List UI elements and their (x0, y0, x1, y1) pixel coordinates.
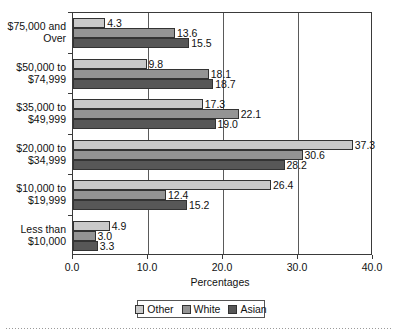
bar-value-label: 3.3 (98, 241, 115, 252)
bar-asian[interactable] (73, 79, 213, 89)
bar-white[interactable] (73, 231, 96, 241)
bar-group: 9.818.118.7 (73, 54, 371, 95)
x-axis-title-text: Percentages (191, 276, 250, 288)
category-label: $50,000 to $74,999 (0, 61, 66, 85)
bar-row: 30.6 (73, 150, 371, 160)
legend-swatch-white-icon (182, 305, 191, 314)
bar-row: 19.0 (73, 119, 371, 129)
legend-item-asian[interactable]: Asian (228, 304, 266, 315)
plot-area: 4.313.615.59.818.118.717.322.119.037.330… (72, 12, 372, 255)
bar-white[interactable] (73, 28, 175, 38)
legend-label-other: Other (147, 304, 173, 315)
category-label: $20,000 to $34,999 (0, 142, 66, 166)
bar-group: 37.330.628.2 (73, 135, 371, 176)
x-axis-tick-label: 30.0 (287, 261, 307, 273)
bar-row: 13.6 (73, 28, 371, 38)
bar-row: 15.5 (73, 38, 371, 48)
bar-value-label: 15.2 (187, 200, 209, 211)
bar-asian[interactable] (73, 160, 285, 170)
x-axis-tick (72, 255, 73, 259)
legend-swatch-asian-icon (228, 305, 237, 314)
x-axis-tick (372, 255, 373, 259)
category-tick (68, 93, 72, 94)
bar-value-label: 18.7 (213, 79, 235, 90)
bar-group: 4.93.03.3 (73, 216, 371, 257)
bar-other[interactable] (73, 99, 203, 109)
chart-legend: Other White Asian (137, 300, 265, 318)
bar-value-label: 17.3 (203, 99, 225, 110)
bar-group: 26.412.415.2 (73, 175, 371, 216)
x-axis-tick (222, 255, 223, 259)
legend-label-white: White (194, 304, 221, 315)
bar-value-label: 4.3 (105, 18, 122, 29)
bar-asian[interactable] (73, 241, 98, 251)
bar-value-label: 12.4 (166, 190, 188, 201)
category-label: $35,000 to $49,999 (0, 101, 66, 125)
bar-row: 18.7 (73, 79, 371, 89)
bar-row: 12.4 (73, 190, 371, 200)
legend-item-white[interactable]: White (182, 304, 221, 315)
category-tick (68, 12, 72, 13)
x-axis-tick-label: 40.0 (362, 261, 382, 273)
bar-value-label: 22.1 (239, 109, 261, 120)
bar-row: 3.3 (73, 241, 371, 251)
bar-white[interactable] (73, 69, 209, 79)
category-tick (68, 134, 72, 135)
bar-value-label: 26.4 (271, 180, 293, 191)
bar-white[interactable] (73, 190, 166, 200)
bar-row: 4.9 (73, 221, 371, 231)
category-tick (68, 215, 72, 216)
bar-asian[interactable] (73, 38, 189, 48)
bar-value-label: 15.5 (189, 38, 211, 49)
grouped-bar-chart: 4.313.615.59.818.118.717.322.119.037.330… (0, 0, 398, 336)
x-axis-tick (147, 255, 148, 259)
bar-other[interactable] (73, 18, 105, 28)
bar-value-label: 28.2 (285, 160, 307, 171)
bar-row: 15.2 (73, 200, 371, 210)
bar-asian[interactable] (73, 200, 187, 210)
bar-row: 28.2 (73, 160, 371, 170)
bar-row: 37.3 (73, 140, 371, 150)
legend-label-asian: Asian (240, 304, 266, 315)
bar-row: 3.0 (73, 231, 371, 241)
category-tick (68, 174, 72, 175)
x-axis-tick-label: 10.0 (137, 261, 157, 273)
bar-group: 17.322.119.0 (73, 94, 371, 135)
category-label: $75,000 and Over (0, 20, 66, 44)
bar-value-label: 37.3 (353, 140, 375, 151)
bar-value-label: 19.0 (216, 119, 238, 130)
bar-asian[interactable] (73, 119, 216, 129)
bar-white[interactable] (73, 150, 303, 160)
x-axis-tick-label: 20.0 (212, 261, 232, 273)
legend-item-other[interactable]: Other (135, 304, 173, 315)
x-axis-title: Percentages (0, 276, 398, 288)
bar-row: 17.3 (73, 99, 371, 109)
x-axis-tick-label: 0.0 (65, 261, 80, 273)
bar-row: 26.4 (73, 180, 371, 190)
category-tick (68, 53, 72, 54)
bar-white[interactable] (73, 109, 239, 119)
legend-swatch-other-icon (135, 305, 144, 314)
bar-row: 4.3 (73, 18, 371, 28)
x-axis-tick (297, 255, 298, 259)
bottom-divider (6, 328, 392, 329)
bar-value-label: 9.8 (147, 59, 164, 70)
category-label: $10,000 to $19,999 (0, 182, 66, 206)
bar-other[interactable] (73, 59, 147, 69)
bar-group: 4.313.615.5 (73, 13, 371, 54)
category-label: Less than $10,000 (0, 223, 66, 247)
